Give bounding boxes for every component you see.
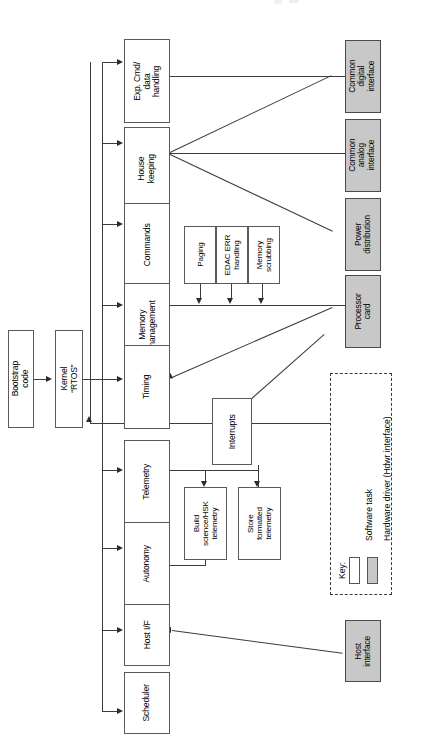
arrowhead-bus-host-if xyxy=(117,627,123,633)
task-bus-outer-vertical xyxy=(90,62,91,424)
connector-bus-scheduler xyxy=(102,711,118,712)
box-processor-card[interactable]: Processor card xyxy=(345,275,381,348)
legend-title: Key: xyxy=(338,519,347,579)
arrowhead-return-to-kernel xyxy=(86,416,92,422)
box-edac-err-handling[interactable]: EDAC ERR handling xyxy=(216,226,248,284)
box-house-keeping-label: House keeping xyxy=(137,154,156,183)
legend-label-hardware-driver: Hardware driver (Hdwr interface) xyxy=(383,381,392,541)
arrowhead-bus-telemetry xyxy=(117,467,123,473)
arrowhead-bus-autonomy xyxy=(117,545,123,551)
arrowhead-scrub-down xyxy=(258,298,264,304)
box-memory-scrubbing-label: Memory scrubbing xyxy=(255,238,273,272)
box-common-analog-interface[interactable]: Common analog interface xyxy=(345,119,381,192)
connector-power-to-house xyxy=(168,153,333,232)
box-timing[interactable]: Timing xyxy=(124,345,170,429)
box-host-if[interactable]: Host I/F xyxy=(124,604,170,666)
connector-telemetry-feed xyxy=(170,470,259,471)
connector-bus-house xyxy=(102,143,118,144)
arrowhead-bootstrap-kernel xyxy=(46,376,52,382)
connector-edac-down xyxy=(231,284,232,299)
box-kernel-rtos-label: Kernel “RTOS” xyxy=(59,365,78,393)
connector-kernel-to-bus xyxy=(83,379,103,380)
box-telemetry-label: Telemetry xyxy=(142,464,152,500)
diagram-canvas: Bootstrap code Kernel “RTOS” Exp. Cmd/ d… xyxy=(0,0,421,752)
connector-bus-telemetry xyxy=(102,470,118,471)
box-host-interface-label: Host interface xyxy=(354,636,373,667)
legend-key: Key: Software task Hardware driver (Hdwr… xyxy=(330,373,392,595)
box-edac-err-handling-label: EDAC ERR handling xyxy=(223,235,241,276)
box-power-distribution[interactable]: Power distribution xyxy=(345,198,381,271)
arrowhead-bus-commands xyxy=(117,221,123,227)
box-store-formatted-telemetry-label: Store formatted telemetry xyxy=(246,507,273,540)
box-bootstrap-code-label: Bootstrap code xyxy=(11,361,30,396)
box-autonomy[interactable]: Autonomy xyxy=(124,522,170,606)
box-common-digital-interface[interactable]: Common digital interface xyxy=(345,40,381,113)
arrowhead-paging-down xyxy=(196,298,202,304)
legend-swatch-software-task xyxy=(349,557,360,584)
box-build-science-hsk-telemetry-label: Build science/HSK telemetry xyxy=(192,501,219,546)
box-host-interface[interactable]: Host interface xyxy=(345,620,381,682)
connector-bus-memmgmt xyxy=(102,305,118,306)
box-interrupts[interactable]: Interrupts xyxy=(212,398,252,465)
box-memory-management-label: Memory management xyxy=(137,301,156,350)
box-paging-label: Paging xyxy=(195,243,204,267)
box-commands-label: Commands xyxy=(142,224,152,267)
connector-processor-to-memmgmt xyxy=(170,305,345,306)
box-scheduler[interactable]: Scheduler xyxy=(124,672,170,734)
box-memory-scrubbing[interactable]: Memory scrubbing xyxy=(248,226,280,284)
box-common-analog-interface-label: Common analog interface xyxy=(349,139,377,172)
box-exp-cmd-data-handling-label: Exp. Cmd/ data handling xyxy=(133,62,162,101)
arrowhead-bus-exp-cmd xyxy=(117,59,123,65)
box-build-science-hsk-telemetry[interactable]: Build science/HSK telemetry xyxy=(184,487,227,560)
connector-hostiface-to-hostif xyxy=(172,630,343,654)
scan-artifact xyxy=(289,0,298,3)
box-exp-cmd-data-handling[interactable]: Exp. Cmd/ data handling xyxy=(124,39,170,123)
legend-label-software-task: Software task xyxy=(365,431,374,541)
box-paging[interactable]: Paging xyxy=(184,226,216,284)
scan-artifact xyxy=(274,0,282,4)
connector-scrub-down xyxy=(262,284,263,299)
box-house-keeping[interactable]: House keeping xyxy=(124,127,170,211)
arrowhead-bus-memmgmt xyxy=(117,302,123,308)
connector-build-to-autonomy-h xyxy=(170,565,206,566)
box-power-distribution-label: Power distribution xyxy=(354,215,373,254)
box-store-formatted-telemetry[interactable]: Store formatted telemetry xyxy=(238,487,281,560)
connector-bus-commands xyxy=(102,224,118,225)
box-scheduler-label: Scheduler xyxy=(142,684,152,721)
arrowhead-bus-timing xyxy=(117,376,123,382)
connector-bus-host-if xyxy=(102,630,118,631)
arrowhead-edac-down xyxy=(227,298,233,304)
box-common-digital-interface-label: Common digital interface xyxy=(349,60,377,93)
box-interrupts-label: Interrupts xyxy=(227,414,237,449)
box-timing-label: Timing xyxy=(142,375,152,400)
box-host-if-label: Host I/F xyxy=(142,621,152,650)
box-commands[interactable]: Commands xyxy=(124,203,170,287)
task-bus-vertical xyxy=(102,62,103,712)
connector-digital-to-expcmd xyxy=(170,76,345,77)
connector-paging-down xyxy=(200,284,201,299)
arrowhead-bus-scheduler xyxy=(117,708,123,714)
connector-bus-autonomy xyxy=(102,548,118,549)
box-processor-card-label: Processor card xyxy=(354,293,373,329)
arrowhead-bus-house xyxy=(117,140,123,146)
connector-bus-timing xyxy=(102,379,118,380)
box-bootstrap-code[interactable]: Bootstrap code xyxy=(8,330,34,428)
connector-analog-to-house xyxy=(170,153,345,154)
box-telemetry[interactable]: Telemetry xyxy=(124,440,170,524)
box-kernel-rtos[interactable]: Kernel “RTOS” xyxy=(55,330,83,428)
legend-swatch-hardware-driver xyxy=(367,557,378,584)
connector-digital-to-house xyxy=(168,75,331,154)
box-autonomy-label: Autonomy xyxy=(142,545,152,583)
connector-bus-exp-cmd xyxy=(102,62,118,63)
connector-processor-to-timing xyxy=(172,307,333,378)
